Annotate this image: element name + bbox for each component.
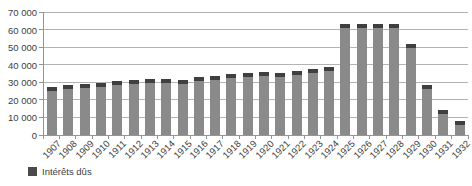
legend: Intérêts dûs bbox=[28, 166, 92, 177]
bar-1925 bbox=[340, 24, 350, 135]
bar-1912 bbox=[129, 80, 139, 135]
bar-1916 bbox=[194, 77, 204, 135]
bar-1918 bbox=[226, 74, 236, 135]
legend-label: Intérêts dûs bbox=[42, 166, 92, 177]
y-axis-labels: 70 00060 00050 00040 00030 00020 00010 0… bbox=[0, 12, 37, 135]
bar-1927 bbox=[373, 24, 383, 135]
y-tick-label: 40 000 bbox=[8, 59, 37, 70]
bar-1907 bbox=[47, 87, 57, 135]
y-tick-label: 10 000 bbox=[8, 112, 37, 123]
bar-1929 bbox=[406, 44, 416, 135]
y-tick-label: 50 000 bbox=[8, 42, 37, 53]
bar-1909 bbox=[80, 84, 90, 135]
bar-1921 bbox=[275, 73, 285, 135]
bar-1926 bbox=[357, 24, 367, 135]
bar-1931 bbox=[438, 110, 448, 135]
bar-1922 bbox=[292, 71, 302, 135]
bar-1930 bbox=[422, 85, 432, 135]
bar-1915 bbox=[178, 80, 188, 135]
bar-1919 bbox=[243, 73, 253, 135]
x-axis-labels: 1907190819091910191119121913191419151916… bbox=[43, 138, 468, 166]
bar-series bbox=[44, 12, 468, 135]
bar-1928 bbox=[389, 24, 399, 135]
y-tick-label: 30 000 bbox=[8, 77, 37, 88]
y-tick-label: 60 000 bbox=[8, 24, 37, 35]
bar-1914 bbox=[161, 79, 171, 135]
bar-1917 bbox=[210, 76, 220, 135]
bar-1910 bbox=[96, 83, 106, 135]
bar-1932 bbox=[455, 121, 465, 135]
legend-swatch bbox=[28, 167, 37, 176]
plot-area bbox=[43, 12, 468, 135]
x-tick-label-text: 1932 bbox=[449, 138, 472, 161]
bar-1920 bbox=[259, 72, 269, 135]
interets-dus-bar-chart: 70 00060 00050 00040 00030 00020 00010 0… bbox=[0, 0, 472, 186]
bar-1908 bbox=[63, 85, 73, 135]
bar-1913 bbox=[145, 79, 155, 135]
bar-1911 bbox=[112, 81, 122, 135]
bar-1924 bbox=[324, 67, 334, 135]
bar-1923 bbox=[308, 69, 318, 135]
y-tick-label: 20 000 bbox=[8, 94, 37, 105]
y-tick-label: 70 000 bbox=[8, 7, 37, 18]
y-tick-label: 0 bbox=[32, 130, 37, 141]
